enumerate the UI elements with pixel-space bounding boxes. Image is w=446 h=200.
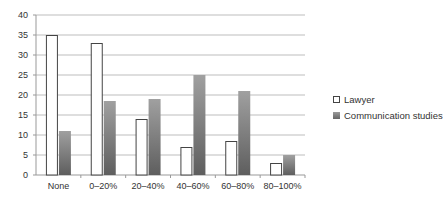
bar-lawyer — [136, 120, 147, 176]
gridlines — [36, 15, 305, 175]
y-tick-label: 5 — [23, 150, 28, 160]
x-tick-label: 20–40% — [132, 181, 165, 191]
y-tick-label: 30 — [18, 50, 28, 60]
x-tick-label: 60–80% — [221, 181, 254, 191]
bar-chart: 0510152025303540 None0–20%20–40%40–60%60… — [0, 0, 446, 200]
x-tick-label: 40–60% — [176, 181, 209, 191]
bar-lawyer — [271, 164, 282, 176]
bar-communication-studies — [193, 75, 205, 175]
x-tick-label: None — [48, 181, 70, 191]
bar-communication-studies — [283, 155, 295, 175]
y-tick-label: 20 — [18, 90, 28, 100]
bar-lawyer — [181, 148, 192, 176]
bar-lawyer — [91, 44, 102, 176]
y-tick-label: 15 — [18, 110, 28, 120]
bar-communication-studies — [104, 101, 116, 175]
y-axis: 0510152025303540 — [18, 10, 36, 180]
legend: Lawyer Communication studies — [333, 91, 443, 123]
y-tick-label: 40 — [18, 10, 28, 20]
bar-communication-studies — [149, 99, 161, 175]
y-tick-label: 35 — [18, 30, 28, 40]
bar-communication-studies — [238, 91, 250, 175]
legend-item-communication-studies: Communication studies — [333, 107, 443, 123]
bar-lawyer — [46, 36, 57, 176]
bars — [46, 36, 295, 176]
bar-communication-studies — [59, 131, 71, 175]
x-tick-label: 80–100% — [264, 181, 302, 191]
y-tick-label: 10 — [18, 130, 28, 140]
x-axis: None0–20%20–40%40–60%60–80%80–100% — [48, 175, 305, 191]
communication-swatch-icon — [333, 112, 340, 119]
legend-item-lawyer: Lawyer — [333, 91, 443, 107]
y-tick-label: 25 — [18, 70, 28, 80]
y-tick-label: 0 — [23, 170, 28, 180]
lawyer-swatch-icon — [333, 96, 340, 103]
legend-label: Communication studies — [344, 110, 443, 121]
x-tick-label: 0–20% — [89, 181, 117, 191]
bar-lawyer — [226, 142, 237, 176]
legend-label: Lawyer — [344, 94, 375, 105]
